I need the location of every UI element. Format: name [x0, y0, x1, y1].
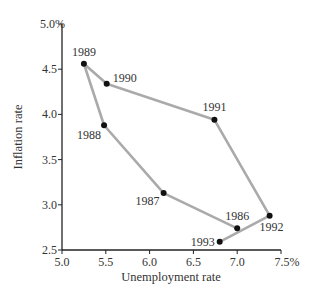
y-tick-label: 2.5: [42, 243, 57, 257]
y-tick-label: 4.0: [42, 107, 57, 121]
point-label: 1989: [72, 45, 96, 59]
data-point: [104, 81, 110, 87]
x-tick-label: 7.0: [230, 255, 245, 269]
x-tick-label: 5.0: [55, 255, 70, 269]
point-label: 1986: [225, 209, 249, 223]
y-tick-label: 3.0: [42, 198, 57, 212]
y-tick-label: 5.0%: [40, 17, 65, 31]
data-point: [101, 122, 107, 128]
x-tick-label: 5.5: [98, 255, 113, 269]
point-label: 1991: [202, 100, 226, 114]
y-tick-label: 4.5: [42, 62, 57, 76]
x-tick-label: 7.5%: [275, 255, 300, 269]
phillips-curve-chart: 5.05.56.06.57.07.5%2.53.03.54.04.55.0% 1…: [0, 0, 314, 297]
x-axis-label: Unemployment rate: [121, 270, 221, 284]
data-point: [81, 61, 87, 67]
point-label: 1988: [77, 128, 101, 142]
x-tick-label: 6.5: [186, 255, 201, 269]
data-point: [211, 117, 217, 123]
data-point: [161, 190, 167, 196]
point-label: 1987: [136, 194, 160, 208]
point-label: 1992: [260, 220, 284, 234]
y-axis-label: Inflation rate: [11, 104, 25, 169]
point-label: 1990: [113, 71, 137, 85]
point-label: 1993: [191, 235, 215, 249]
data-point: [234, 225, 240, 231]
series-path: 19861987198819891990199119921993: [72, 45, 284, 249]
data-point: [217, 239, 223, 245]
x-tick-label: 6.0: [142, 255, 157, 269]
y-tick-label: 3.5: [42, 153, 57, 167]
data-point: [267, 213, 273, 219]
